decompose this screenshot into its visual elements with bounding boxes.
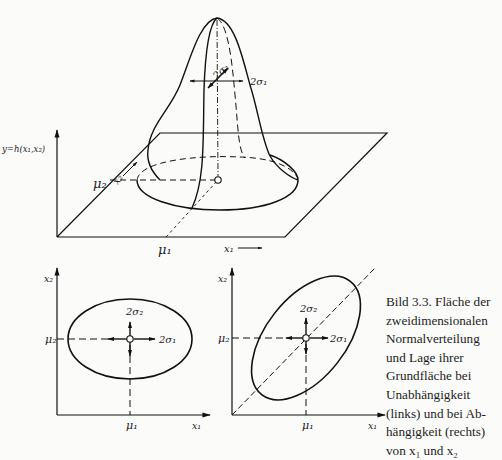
figure-caption: Bild 3.3. Fläche der zweidimensionalen N… — [386, 293, 502, 460]
caption-line: Grundfläche bei — [386, 367, 502, 386]
caption-line: Unabhängigkeit — [386, 386, 502, 405]
surface-3d-diagram — [57, 18, 387, 248]
mu2-label-left: μ₂ — [45, 333, 57, 346]
mu1-label-right: μ₁ — [302, 419, 314, 432]
x2-label-left: x₂ — [44, 273, 53, 284]
mu1-label-top: μ₁ — [158, 242, 172, 257]
sigma1-label-left: 2σ₁ — [158, 334, 176, 345]
x1-label-left: x₁ — [192, 420, 201, 431]
mu2-label-top: μ₂ — [93, 176, 107, 191]
x1-label-top: x₁ — [224, 243, 234, 254]
caption-line: (links) und bei Ab- — [386, 405, 502, 424]
caption-line: zweidimensionalen — [386, 312, 502, 331]
x2-label-top: x₂ — [110, 172, 125, 186]
caption-line: Normalverteilung — [386, 330, 502, 349]
dependent-ellipse-plot — [230, 257, 385, 420]
independent-ellipse-plot — [57, 268, 210, 415]
mu2-label-right: μ₂ — [218, 332, 230, 345]
caption-line: und Lage ihrer — [386, 349, 502, 368]
sigma1-label-top: 2σ₁ — [249, 76, 267, 87]
sigma2-label-top: 2σ₂ — [210, 62, 231, 82]
sigma1-label-right: 2σ₁ — [329, 333, 347, 344]
caption-line: von x₁ und x₂ — [386, 442, 502, 460]
bell-left-silhouette — [148, 18, 217, 180]
caption-line: Bild 3.3. Fläche der — [386, 293, 502, 312]
mu1-label-left: μ₁ — [126, 419, 138, 432]
center-point — [127, 336, 133, 342]
caption-line: hängigkeit (rechts) — [386, 423, 502, 442]
sigma2-label-right: 2σ₂ — [299, 303, 317, 314]
center-axis-line — [217, 20, 218, 176]
sigma2-label-left: 2σ₂ — [125, 306, 143, 317]
center-point — [303, 335, 309, 341]
x2-label-right: x₂ — [218, 273, 227, 284]
bell-right-silhouette — [217, 18, 298, 180]
bell-dashed-section — [217, 18, 245, 158]
y-axis-label: y=h(x₁,x₂) — [1, 144, 45, 154]
x1-label-right: x₁ — [368, 420, 377, 431]
center-point — [215, 177, 221, 183]
